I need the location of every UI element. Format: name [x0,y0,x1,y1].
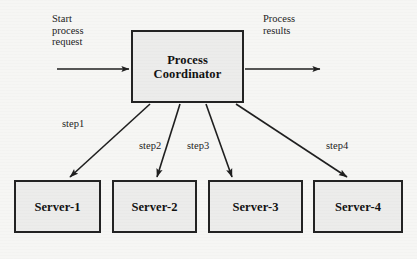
coordinator-label-line-1: Process [167,53,208,67]
node-server-2[interactable]: Server-2 [112,180,197,233]
node-process-coordinator-label: ProcessCoordinator [154,53,222,81]
diagram-canvas: ProcessCoordinator Server-1 Server-2 Ser… [0,0,417,259]
node-server-4-label: Server-4 [335,200,381,214]
node-server-1-label: Server-1 [34,200,80,214]
arrow-step3 [206,104,232,177]
node-server-1[interactable]: Server-1 [14,180,101,233]
node-server-3[interactable]: Server-3 [208,180,303,233]
label-step3: step3 [187,140,209,151]
node-server-3-label: Server-3 [232,200,278,214]
label-step1: step1 [62,118,84,129]
label-step4: step4 [326,140,348,151]
label-start-process-request: Start process request [52,13,84,48]
coordinator-label-line-2: Coordinator [154,67,222,81]
node-server-4[interactable]: Server-4 [313,180,403,233]
node-process-coordinator[interactable]: ProcessCoordinator [131,30,244,103]
label-step2: step2 [139,140,161,151]
label-process-results: Process results [263,13,295,36]
arrow-step1 [70,104,150,177]
node-server-2-label: Server-2 [131,200,177,214]
